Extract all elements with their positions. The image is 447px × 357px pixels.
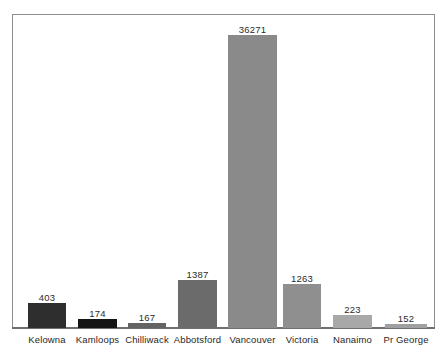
bar-vancouver[interactable]: 36271 (228, 0, 277, 357)
bar-value-label: 174 (89, 308, 105, 319)
bar-chart: 4031741671387362711263223152 KelownaKaml… (0, 0, 447, 357)
bar-value-label: 223 (344, 304, 360, 315)
category-label-pr-george: Pr George (372, 334, 440, 345)
bar-rect[interactable] (178, 280, 217, 328)
bar-rect[interactable] (228, 35, 277, 328)
bar-kelowna[interactable]: 403 (28, 0, 66, 357)
bar-rect[interactable] (128, 323, 166, 328)
bar-victoria[interactable]: 1263 (283, 0, 321, 357)
bar-value-label: 36271 (239, 24, 266, 35)
bar-nanaimo[interactable]: 223 (333, 0, 372, 357)
bar-chilliwack[interactable]: 167 (128, 0, 166, 357)
bar-value-label: 167 (139, 312, 155, 323)
bars-layer: 4031741671387362711263223152 (0, 0, 447, 357)
bar-value-label: 1263 (291, 273, 313, 284)
bar-rect[interactable] (385, 324, 427, 328)
bar-pr-george[interactable]: 152 (385, 0, 427, 357)
bar-rect[interactable] (333, 315, 372, 328)
bar-kamloops[interactable]: 174 (78, 0, 117, 357)
bar-rect[interactable] (283, 284, 321, 328)
bar-value-label: 152 (398, 313, 414, 324)
bar-value-label: 403 (39, 292, 55, 303)
bar-value-label: 1387 (187, 269, 209, 280)
category-labels: KelownaKamloopsChilliwackAbbotsfordVanco… (0, 334, 447, 357)
bar-abbotsford[interactable]: 1387 (178, 0, 217, 357)
bar-rect[interactable] (78, 319, 117, 328)
bar-rect[interactable] (28, 303, 66, 328)
